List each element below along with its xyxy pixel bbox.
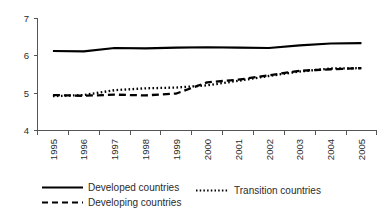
series-line-developing-countries [53,68,362,96]
y-tick-label-6: 6 [24,50,29,61]
x-tick-label-2000: 2000 [202,139,213,160]
x-tick-label-1995: 1995 [48,139,59,160]
x-tick-label-2004: 2004 [325,139,336,160]
x-tick-label-2002: 2002 [264,139,275,160]
x-tick-label-2005: 2005 [356,139,367,160]
legend-label-developing-countries: Developing countries [88,197,181,208]
chart-svg: 7 6 5 4 1995 1996 1997 1998 1999 2000 [0,0,391,214]
x-tick-label-1996: 1996 [78,139,89,160]
x-tick-label-1997: 1997 [109,139,120,160]
x-tick-label-2001: 2001 [233,139,244,160]
y-tick-label-7: 7 [24,13,29,24]
y-tick-label-5: 5 [24,88,29,99]
x-tick-label-1999: 1999 [171,139,182,160]
y-tick-label-4: 4 [24,125,29,136]
line-chart-figure: 7 6 5 4 1995 1996 1997 1998 1999 2000 [0,0,391,214]
chart-legend: Developed countries Developing countries… [42,182,321,208]
legend-label-transition-countries: Transition countries [234,185,321,196]
y-tick-marks [34,19,38,131]
series-line-developed-countries [53,43,362,51]
legend-label-developed-countries: Developed countries [88,182,179,193]
x-tick-label-2003: 2003 [294,139,305,160]
x-tick-marks [38,131,377,136]
x-tick-label-1998: 1998 [140,139,151,160]
x-tick-labels: 1995 1996 1997 1998 1999 2000 2001 2002 … [48,139,368,160]
